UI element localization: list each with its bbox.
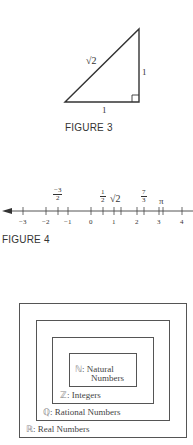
natural-numbers-label-line2: Numbers: [91, 374, 124, 383]
vertical-side-label: 1: [142, 68, 147, 77]
figure-3-caption: FIGURE 3: [65, 122, 113, 133]
point-label-sqrt2: √2: [110, 194, 121, 204]
hypotenuse-label: √2: [86, 56, 97, 66]
rational-numbers-label: ℚ: Rational Numbers: [43, 408, 121, 417]
point-label-neg-three-halves: −3 2: [53, 187, 62, 202]
base-label: 1: [102, 106, 107, 115]
tick-label: −3: [19, 219, 26, 226]
tick-label: 4: [180, 219, 184, 226]
tick-label: −1: [64, 219, 71, 226]
natural-symbol: ℕ: [75, 364, 82, 374]
point-label-pi: π: [159, 197, 164, 206]
point-label-one-half: 1 2: [100, 189, 106, 204]
real-numbers-label: ℝ: Real Numbers: [26, 425, 90, 434]
figure-4-caption: FIGURE 4: [2, 234, 50, 245]
integers-symbol: ℤ: [60, 390, 67, 400]
real-symbol: ℝ: [26, 424, 33, 434]
tick-label: −2: [42, 219, 49, 226]
left-arrow-icon: [2, 208, 12, 214]
right-triangle: [65, 29, 139, 102]
tick-label: 2: [135, 219, 139, 226]
point-label-seven-thirds: 7 3: [141, 189, 147, 204]
tick-label: 3: [157, 219, 161, 226]
integers-label: ℤ: Integers: [60, 391, 101, 400]
right-angle-marker: [132, 95, 139, 102]
tick-label: 0: [89, 219, 93, 226]
tick-label: 1: [112, 219, 116, 226]
rational-symbol: ℚ: [43, 407, 50, 417]
number-line: [2, 207, 193, 215]
